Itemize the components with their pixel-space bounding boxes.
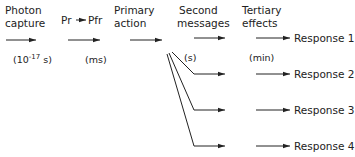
timescale-unit: s) — [40, 54, 52, 65]
timescale-s: (s) — [184, 52, 196, 64]
timescale-photon: (10-17 s) — [13, 54, 52, 66]
stage-photon-label: Photon — [5, 4, 42, 16]
stage-pr-label: Pr — [61, 14, 71, 26]
stage-second-label: Second — [179, 4, 218, 16]
timescale-base: (10 — [13, 54, 29, 65]
stage-effects-label: effects — [242, 17, 278, 29]
phytochrome-signal-diagram: Photon capture (10-17 s) Pr Pfr (ms) Pri… — [0, 0, 355, 157]
stage-pfr-label: Pfr — [88, 14, 102, 26]
timescale-exponent: -17 — [29, 53, 40, 61]
stage-action-label: action — [114, 17, 146, 29]
stage-tertiary-label: Tertiary — [242, 4, 281, 16]
response-2-label: Response 2 — [294, 68, 354, 80]
timescale-min: (min) — [249, 52, 274, 64]
stage-capture-label: capture — [5, 17, 45, 29]
stage-primary-label: Primary — [114, 4, 155, 16]
stage-messages-label: messages — [177, 17, 230, 29]
response-1-label: Response 1 — [294, 32, 354, 44]
response-4-label: Response 4 — [294, 140, 354, 152]
timescale-ms: (ms) — [85, 54, 107, 66]
response-3-label: Response 3 — [294, 104, 354, 116]
